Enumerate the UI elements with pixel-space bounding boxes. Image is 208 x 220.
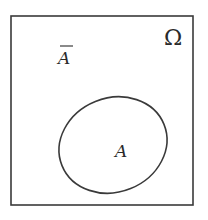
complement-label: A xyxy=(56,46,73,68)
set-a-ellipse xyxy=(44,81,181,209)
set-a-label: A xyxy=(113,141,127,161)
venn-diagram: Ω A A xyxy=(0,0,208,220)
complement-letter: A xyxy=(56,48,70,68)
universe-label: Ω xyxy=(164,25,182,50)
